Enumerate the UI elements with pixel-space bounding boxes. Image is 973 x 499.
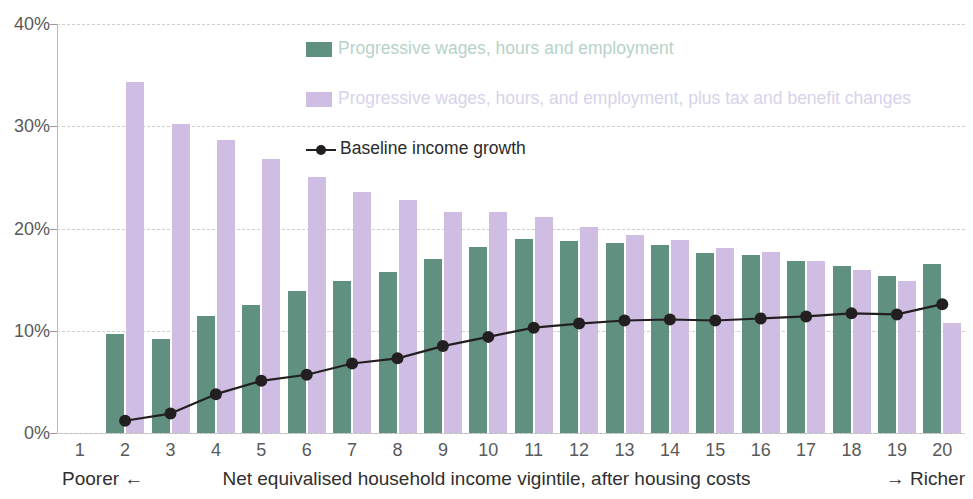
bar (262, 159, 280, 433)
x-axis-tick-label: 10 (478, 440, 498, 461)
bar (833, 266, 851, 433)
bar (762, 252, 780, 433)
bar (696, 253, 714, 433)
bar (515, 239, 533, 433)
legend-line-marker-icon (306, 142, 336, 157)
bar (288, 291, 306, 433)
bar (333, 281, 351, 433)
legend-swatch-purple-icon (306, 92, 332, 107)
chart-legend: Progressive wages, hours and employment … (306, 36, 966, 162)
x-axis-tick-label: 8 (392, 440, 402, 461)
chart-container: 0%10%20%30%40% Progressive wages, hours … (0, 0, 973, 499)
x-axis-tick-label: 16 (751, 440, 771, 461)
y-axis-tick-label: 10% (14, 320, 50, 341)
legend-item-progressive-wages: Progressive wages, hours and employment (306, 36, 966, 62)
x-axis-tick-label: 17 (796, 440, 816, 461)
x-axis-tick-label: 4 (211, 440, 221, 461)
bar (242, 305, 260, 433)
legend-item-progressive-wages-plus-tax: Progressive wages, hours, and employment… (306, 86, 966, 112)
y-axis-tick-label: 0% (24, 423, 50, 444)
x-axis-tick-labels: 1234567891011121314151617181920 (57, 440, 965, 464)
bar (106, 334, 124, 433)
x-axis-tick-label: 19 (887, 440, 907, 461)
x-axis-caption-poorer: Poorer ← (62, 468, 143, 490)
bar (716, 248, 734, 433)
x-axis-tick-label: 1 (75, 440, 85, 461)
bar (152, 339, 170, 433)
bar (878, 276, 896, 433)
bar (943, 323, 961, 433)
bar (126, 82, 144, 433)
x-axis-tick-label: 14 (660, 440, 680, 461)
bar (606, 243, 624, 433)
gridline (57, 433, 965, 434)
bar (424, 259, 442, 433)
bar (469, 247, 487, 433)
y-axis-tick-labels: 0%10%20%30%40% (0, 24, 50, 433)
bar (626, 235, 644, 433)
bar (898, 281, 916, 433)
bar (535, 217, 553, 433)
x-axis-tick-label: 6 (302, 440, 312, 461)
bar (807, 261, 825, 433)
x-axis-tick-label: 2 (120, 440, 130, 461)
x-axis-captions: Poorer ← Net equivalised household incom… (0, 468, 973, 496)
y-axis-tick-mark (50, 126, 57, 127)
gridline (57, 229, 965, 230)
bar (197, 316, 215, 433)
y-axis-tick-mark (50, 24, 57, 25)
legend-swatch-green-icon (306, 42, 332, 57)
x-axis-tick-label: 13 (614, 440, 634, 461)
bar (651, 245, 669, 433)
bar (923, 264, 941, 433)
y-axis-tick-label: 20% (14, 218, 50, 239)
bar (787, 261, 805, 433)
x-axis-tick-label: 11 (524, 440, 543, 461)
y-axis-tick-label: 30% (14, 116, 50, 137)
bar (489, 212, 507, 433)
gridline (57, 24, 965, 25)
bar (580, 227, 598, 433)
legend-item-baseline-income-growth: Baseline income growth (306, 136, 966, 162)
x-axis-title: Net equivalised household income viginti… (222, 468, 750, 490)
x-axis-tick-label: 20 (932, 440, 952, 461)
x-axis-tick-label: 15 (705, 440, 725, 461)
bar (353, 192, 371, 433)
bar (671, 240, 689, 433)
x-axis-tick-label: 5 (256, 440, 266, 461)
bar (379, 272, 397, 433)
bar (308, 177, 326, 433)
x-axis-caption-richer: → Richer (886, 468, 965, 490)
x-axis-tick-label: 9 (438, 440, 448, 461)
x-axis-tick-label: 7 (347, 440, 357, 461)
y-axis-tick-mark (50, 433, 57, 434)
bar (172, 124, 190, 433)
x-axis-tick-label: 12 (569, 440, 589, 461)
bar (444, 212, 462, 433)
x-axis-tick-label: 18 (841, 440, 861, 461)
bar (217, 140, 235, 433)
y-axis-tick-mark (50, 229, 57, 230)
gridline (57, 331, 965, 332)
y-axis-tick-label: 40% (14, 14, 50, 35)
bar (560, 241, 578, 433)
y-axis-tick-mark (50, 331, 57, 332)
legend-label-progressive-wages: Progressive wages, hours and employment (338, 40, 674, 58)
legend-label-progressive-wages-plus-tax: Progressive wages, hours, and employment… (338, 90, 911, 108)
x-axis-tick-label: 3 (165, 440, 175, 461)
bar (853, 270, 871, 433)
bar (742, 255, 760, 433)
legend-label-baseline-income-growth: Baseline income growth (340, 140, 526, 158)
bar (399, 200, 417, 433)
